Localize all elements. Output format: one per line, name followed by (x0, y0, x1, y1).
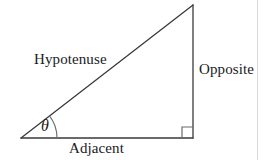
opposite-label: Opposite (199, 62, 254, 77)
triangle-diagram (0, 0, 266, 160)
triangle-figure: Hypotenuse Opposite Adjacent θ (0, 0, 266, 160)
theta-angle-label: θ (41, 118, 49, 134)
right-angle-marker (182, 127, 193, 138)
page-edge-divider (257, 0, 258, 160)
adjacent-label: Adjacent (69, 141, 124, 156)
hypotenuse-label: Hypotenuse (34, 52, 107, 67)
angle-arc (49, 116, 57, 138)
